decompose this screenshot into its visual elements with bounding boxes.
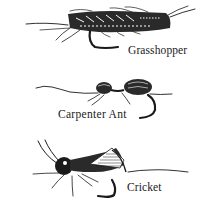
cricket-label: Cricket [127, 181, 162, 193]
carpenter-ant-label: Carpenter Ant [58, 108, 127, 120]
fly-patterns-illustration: Grasshopper Carpenter Ant Cricket [0, 0, 209, 215]
grasshopper-label: Grasshopper [128, 44, 187, 56]
grasshopper-fly-icon [0, 0, 209, 70]
